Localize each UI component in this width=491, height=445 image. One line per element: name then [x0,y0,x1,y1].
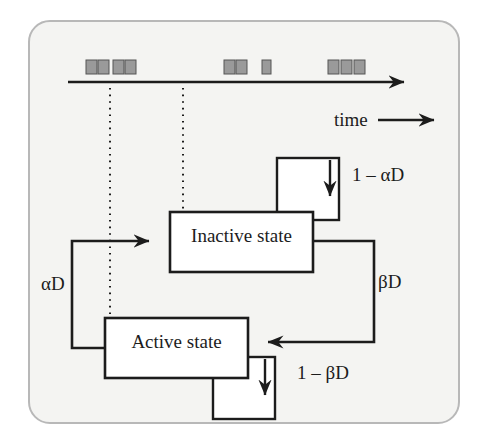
transition-label-alpha-d: αD [41,274,65,293]
self-loop-active-label: 1 – βD [297,363,349,382]
event-marker [98,60,109,74]
self-loop-inactive [277,158,339,220]
event-marker [328,60,339,74]
transition-label-beta-d: βD [378,272,401,291]
event-marker [113,60,124,74]
state-label-active: Active state [105,320,248,364]
event-marker [262,60,271,74]
self-loop-inactive-label: 1 – αD [352,165,404,184]
state-label-inactive: Inactive state [170,214,313,258]
event-marker [125,60,136,74]
event-marker [354,60,365,74]
event-marker [341,60,352,74]
event-marker [86,60,97,74]
figure-container: time 1 – αD 1 – βD αD βD Inactive state … [0,0,491,445]
event-marker-group [86,60,365,74]
time-axis-label: time [334,110,368,129]
event-marker [236,60,247,74]
event-marker [224,60,235,74]
